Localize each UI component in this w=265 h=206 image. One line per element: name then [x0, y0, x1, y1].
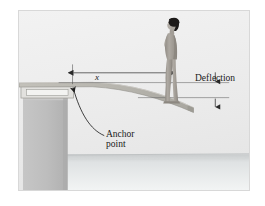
- deflection-label: Deflection: [195, 74, 235, 84]
- figure-page: Deflection x Anchor point: [0, 0, 265, 206]
- anchor-point-label-line2: point: [106, 140, 135, 150]
- concrete-pillar: [23, 98, 68, 190]
- scene-illustration: [19, 11, 249, 190]
- water-surface: [65, 154, 249, 190]
- illustration-frame: Deflection x Anchor point: [18, 10, 250, 191]
- fulcrum-frame: [21, 87, 74, 98]
- distance-x-label: x: [95, 73, 99, 82]
- anchor-point-label: Anchor point: [106, 130, 135, 150]
